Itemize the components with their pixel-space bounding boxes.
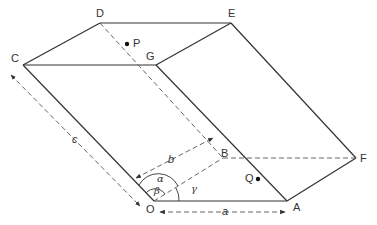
vertex-label-G: G bbox=[146, 51, 155, 62]
edge-GA bbox=[156, 65, 287, 201]
vertex-label-C: C bbox=[11, 53, 19, 64]
angle-label-gamma: γ bbox=[191, 184, 197, 194]
edge-EF bbox=[231, 23, 356, 158]
unit-cell-diagram bbox=[0, 0, 377, 225]
point-label-Q: Q bbox=[245, 173, 254, 184]
point-Q-dot bbox=[256, 177, 260, 181]
edge-GE bbox=[156, 23, 231, 65]
edge-AF bbox=[287, 158, 356, 201]
dimension-b-arrow bbox=[136, 138, 213, 178]
vertex-label-D: D bbox=[96, 8, 104, 19]
vertex-label-B: B bbox=[221, 148, 228, 159]
point-P-dot bbox=[125, 42, 129, 46]
point-label-P: P bbox=[133, 38, 140, 49]
vertex-label-E: E bbox=[228, 8, 235, 19]
angle-label-beta: β bbox=[154, 186, 160, 196]
edge-CO bbox=[23, 65, 154, 201]
vertex-label-O: O bbox=[146, 204, 155, 215]
dimension-label-a: a bbox=[222, 206, 228, 217]
solid-edges bbox=[23, 23, 356, 201]
edge-DB bbox=[100, 23, 223, 158]
vertex-label-F: F bbox=[360, 153, 367, 164]
angle-label-alpha: α bbox=[157, 174, 164, 184]
angle-gamma-arc bbox=[176, 188, 179, 201]
hidden-edges bbox=[100, 23, 356, 201]
dimension-label-c: c bbox=[72, 134, 78, 145]
dimension-label-b: b bbox=[168, 154, 174, 165]
edge-CD bbox=[23, 23, 100, 65]
edge-OB bbox=[154, 158, 223, 201]
vertex-label-A: A bbox=[293, 202, 300, 213]
